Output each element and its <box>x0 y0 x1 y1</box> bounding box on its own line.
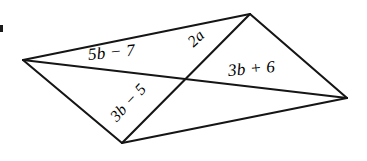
geometry-canvas <box>0 0 367 161</box>
segment-label-upper-left: 5b − 7 <box>87 42 136 63</box>
geometry-figure: 5b − 7 2a 3b + 6 3b − 5 <box>0 0 367 161</box>
left-edge-artifact-mark <box>0 25 3 32</box>
segment-label-lower-right: 3b + 6 <box>227 58 276 79</box>
edge-left-to-top <box>23 14 250 60</box>
edge-top-to-right <box>250 14 347 98</box>
edge-bottom-to-left <box>23 60 122 143</box>
edge-right-to-bottom <box>122 98 347 143</box>
